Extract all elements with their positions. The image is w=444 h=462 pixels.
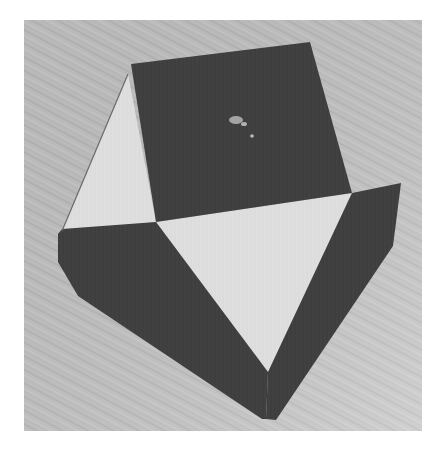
photograph bbox=[0, 0, 444, 462]
